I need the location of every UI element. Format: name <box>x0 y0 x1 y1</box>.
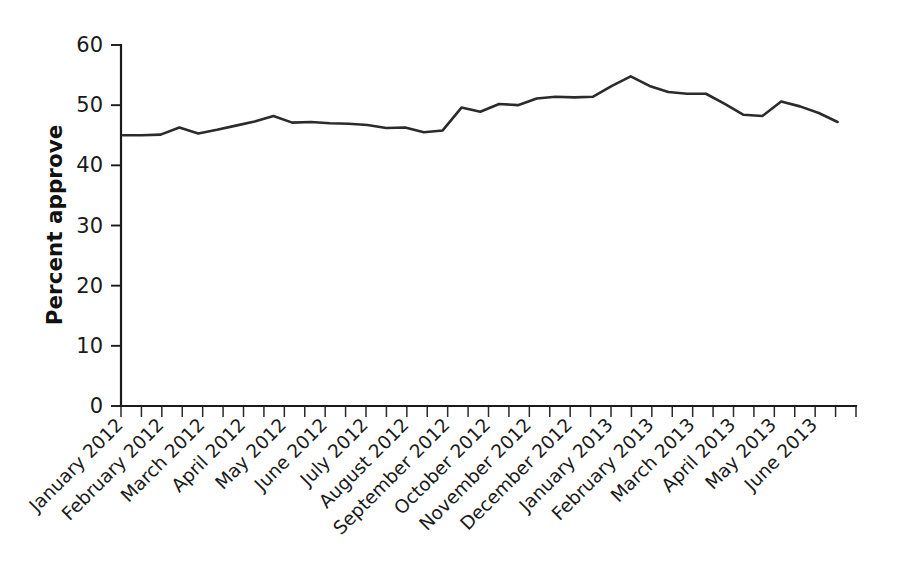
line-chart-canvas: Percent approve 0102030405060 January 20… <box>0 0 901 577</box>
chart-figure: Percent approve 0102030405060 January 20… <box>0 0 901 577</box>
y-axis-tick-label: 20 <box>76 274 103 298</box>
y-axis-tick-label: 10 <box>76 334 103 358</box>
y-axis-tick-label: 50 <box>76 93 103 117</box>
y-axis-label: Percent approve <box>42 125 67 326</box>
y-axis-tick-label: 0 <box>90 394 103 418</box>
y-axis-label-text: Percent approve <box>42 125 67 326</box>
y-axis-tick-label: 60 <box>76 33 103 57</box>
y-axis-tick-label: 30 <box>76 214 103 238</box>
y-axis-tick-label: 40 <box>76 153 103 177</box>
